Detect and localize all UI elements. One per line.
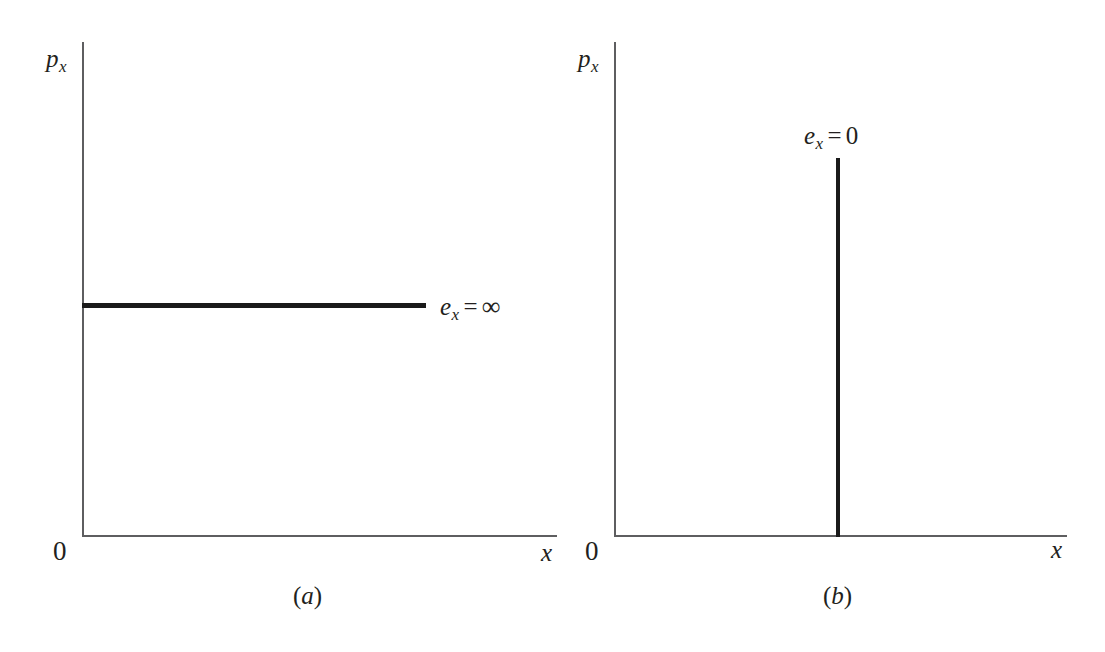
panel-b-caption: (b): [823, 583, 852, 608]
panel-a-caption-letter: a: [301, 582, 314, 609]
elasticity-figure: px x 0 ex=∞ (a) px x 0 ex=0 (b): [0, 0, 1105, 652]
panel-a-x-axis: [82, 535, 557, 537]
panel-b-curve-label-base: e: [804, 122, 815, 149]
panel-a-caption: (a): [293, 583, 322, 608]
panel-a-y-axis-label-sub: x: [59, 57, 67, 76]
panel-b-demand-curve: [836, 158, 840, 537]
panel-a-y-axis: [82, 42, 84, 537]
panel-a-origin-label: 0: [53, 538, 67, 565]
panel-a-curve-label-operator: =: [463, 293, 477, 320]
panel-b-y-axis-label-base: p: [578, 45, 591, 72]
panel-a-curve-label-value: ∞: [482, 292, 501, 321]
panel-b-x-axis-label: x: [1051, 537, 1062, 562]
panel-b-y-axis-label-sub: x: [591, 57, 599, 76]
panel-b-x-axis: [614, 535, 1067, 537]
panel-b-caption-close: ): [844, 582, 852, 609]
panel-b-curve-label-operator: =: [827, 122, 841, 149]
panel-a-curve-label: ex=∞: [440, 294, 500, 323]
panel-b-curve-label-value: 0: [846, 122, 859, 149]
panel-b-y-axis-label: px: [578, 46, 599, 75]
panel-a-y-axis-label: px: [46, 46, 67, 75]
panel-a-caption-close: ): [314, 582, 322, 609]
panel-a-curve-label-sub: x: [452, 305, 460, 324]
panel-b-caption-letter: b: [831, 582, 844, 609]
panel-a-curve-label-base: e: [440, 293, 451, 320]
panel-a: px x 0 ex=∞ (a): [0, 0, 560, 652]
panel-b: px x 0 ex=0 (b): [532, 0, 1105, 652]
panel-b-y-axis: [614, 42, 616, 537]
panel-b-origin-label: 0: [585, 538, 599, 565]
panel-a-y-axis-label-base: p: [46, 45, 59, 72]
panel-a-demand-curve: [82, 303, 426, 308]
panel-b-curve-label: ex=0: [804, 123, 858, 152]
panel-b-curve-label-sub: x: [816, 134, 824, 153]
